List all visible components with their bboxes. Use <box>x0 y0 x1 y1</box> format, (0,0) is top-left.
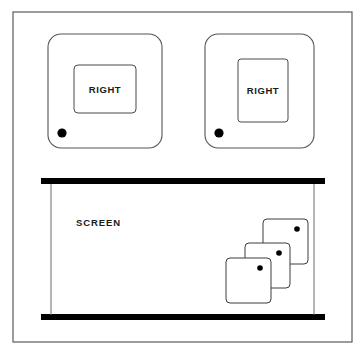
window-card-back-dot <box>294 226 300 232</box>
window-card-front[interactable] <box>226 258 271 303</box>
window-card-front-dot <box>257 265 263 271</box>
left-panel[interactable]: RIGHT <box>48 34 162 148</box>
window-card-middle-dot <box>276 250 282 256</box>
left-panel-indicator-dot <box>57 128 66 137</box>
screen-top-bar <box>41 178 325 184</box>
diagram-canvas: RIGHT RIGHT SCREEN <box>0 0 364 353</box>
right-panel[interactable]: RIGHT <box>205 34 314 148</box>
diagram-svg: RIGHT RIGHT SCREEN <box>0 0 364 353</box>
right-panel-indicator-dot <box>214 128 223 137</box>
window-card-front-body <box>226 258 271 303</box>
left-panel-label: RIGHT <box>89 84 122 95</box>
screen-bottom-bar <box>41 314 325 320</box>
right-panel-label: RIGHT <box>247 85 280 96</box>
screen-label: SCREEN <box>76 217 121 228</box>
